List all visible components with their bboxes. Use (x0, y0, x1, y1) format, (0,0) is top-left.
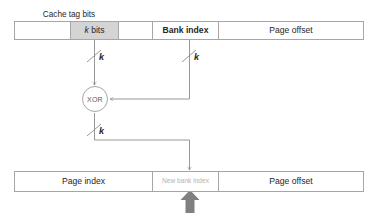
emphasis-up-arrow (181, 190, 200, 213)
cache-tag-bits-label: Cache tag bits (20, 8, 118, 21)
bottom-cell-page-index: Page index (15, 172, 153, 191)
wire-label-k-tag-bits: k (99, 53, 104, 62)
physical-address-bar: k bits Bank index Page offset (14, 21, 364, 40)
wire-bank-index-to-xor (110, 40, 196, 99)
top-cell-tag-left (15, 22, 71, 39)
top-cell-page-offset: Page offset (219, 22, 363, 39)
translated-address-bar: Page index New bank index Page offset (14, 171, 364, 192)
top-cell-k-bits: k bits (71, 22, 119, 39)
bank-index-xor-diagram: Cache tag bits k bits Bank index Page of… (0, 0, 381, 221)
cache-tag-bits-dimension: Cache tag bits (20, 8, 118, 21)
wire-xor-to-new-bank-index (87, 113, 190, 170)
wire-label-k-bank-index: k (194, 53, 199, 62)
bottom-cell-new-bank-index: New bank index (153, 172, 219, 191)
wire-label-k-output: k (99, 127, 104, 136)
top-cell-tag-right (119, 22, 153, 39)
xor-gate: XOR (82, 86, 108, 112)
xor-label: XOR (87, 96, 103, 103)
top-cell-bank-index: Bank index (153, 22, 219, 39)
bottom-cell-page-offset: Page offset (219, 172, 363, 191)
wire-tag-bits-to-xor (87, 40, 101, 85)
